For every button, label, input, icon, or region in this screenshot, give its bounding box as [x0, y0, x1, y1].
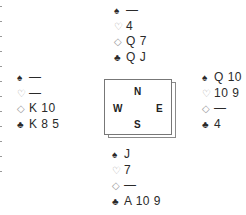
west-clubs-row: ♣ K 8 5 [17, 117, 60, 133]
north-hand: ♠ — ♡ 4 ◇ Q 7 ♣ Q J [114, 3, 147, 65]
spade-icon: ♠ [114, 3, 126, 19]
north-clubs: Q J [126, 50, 146, 66]
left-edge-marks [0, 6, 3, 186]
club-icon: ♣ [114, 50, 126, 66]
edge-tick [0, 51, 2, 52]
spade-icon: ♠ [202, 70, 214, 86]
west-hearts: — [29, 86, 42, 102]
south-hearts-row: ♡ 7 [112, 163, 161, 179]
west-diamonds: K 10 [29, 101, 56, 117]
edge-tick [0, 111, 2, 112]
edge-tick [0, 66, 2, 67]
north-hearts: 4 [126, 19, 133, 35]
club-icon: ♣ [202, 117, 214, 133]
north-diamonds: Q 7 [126, 34, 147, 50]
south-hand: ♠ J ♡ 7 ◇ — ♣ A 10 9 [112, 147, 161, 209]
edge-tick [0, 141, 2, 142]
east-spades: Q 10 [214, 70, 242, 86]
edge-tick [0, 126, 2, 127]
compass-east: E [156, 103, 163, 114]
club-icon: ♣ [112, 194, 124, 210]
edge-tick [0, 96, 2, 97]
edge-tick [0, 6, 2, 7]
north-diamonds-row: ◇ Q 7 [114, 34, 147, 50]
east-clubs-row: ♣ 4 [202, 117, 242, 133]
north-spades-row: ♠ — [114, 3, 147, 19]
east-diamonds: — [214, 101, 227, 117]
heart-icon: ♡ [112, 163, 124, 179]
west-hearts-row: ♡ — [17, 86, 60, 102]
west-diamonds-row: ◇ K 10 [17, 101, 60, 117]
diamond-icon: ◇ [202, 101, 214, 117]
west-spades: — [29, 70, 42, 86]
compass-north: N [134, 86, 141, 97]
heart-icon: ♡ [17, 86, 29, 102]
south-diamonds-row: ◇ — [112, 178, 161, 194]
edge-tick [0, 21, 2, 22]
south-clubs: A 10 9 [124, 194, 161, 210]
north-clubs-row: ♣ Q J [114, 50, 147, 66]
south-spades: J [124, 147, 131, 163]
compass-west: W [113, 103, 122, 114]
compass-south: S [134, 119, 141, 130]
east-spades-row: ♠ Q 10 [202, 70, 242, 86]
east-hearts: 10 9 [214, 86, 239, 102]
compass-table: N W E S [104, 79, 172, 135]
east-diamonds-row: ◇ — [202, 101, 242, 117]
diamond-icon: ◇ [112, 178, 124, 194]
south-clubs-row: ♣ A 10 9 [112, 194, 161, 210]
east-hand: ♠ Q 10 ♡ 10 9 ◇ — ♣ 4 [202, 70, 242, 132]
edge-tick [0, 156, 2, 157]
club-icon: ♣ [17, 117, 29, 133]
west-clubs: K 8 5 [29, 117, 60, 133]
east-hearts-row: ♡ 10 9 [202, 86, 242, 102]
edge-tick [0, 81, 2, 82]
diamond-icon: ◇ [17, 101, 29, 117]
south-spades-row: ♠ J [112, 147, 161, 163]
heart-icon: ♡ [202, 86, 214, 102]
spade-icon: ♠ [112, 147, 124, 163]
west-spades-row: ♠ — [17, 70, 60, 86]
spade-icon: ♠ [17, 70, 29, 86]
north-spades: — [126, 3, 139, 19]
edge-tick [0, 171, 2, 172]
west-hand: ♠ — ♡ — ◇ K 10 ♣ K 8 5 [17, 70, 60, 132]
heart-icon: ♡ [114, 19, 126, 35]
east-clubs: 4 [214, 117, 221, 133]
south-diamonds: — [124, 178, 137, 194]
diamond-icon: ◇ [114, 34, 126, 50]
north-hearts-row: ♡ 4 [114, 19, 147, 35]
south-hearts: 7 [124, 163, 131, 179]
edge-tick [0, 36, 2, 37]
